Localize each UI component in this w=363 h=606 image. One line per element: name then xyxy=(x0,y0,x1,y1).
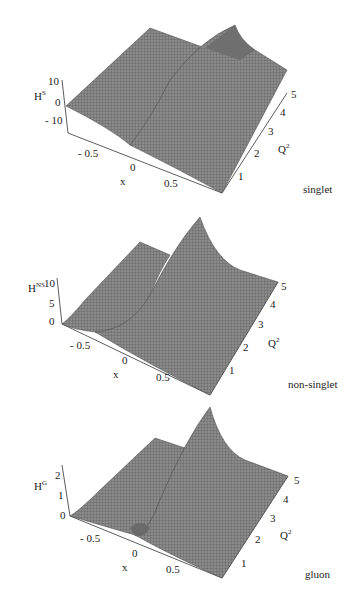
z-tick: 2 xyxy=(55,470,61,481)
z-tick: 10 xyxy=(48,76,59,87)
z-label-sup: G xyxy=(42,479,47,487)
x-axis-label: x xyxy=(113,369,119,380)
z-tick: 0 xyxy=(60,510,66,521)
y-label-text: Q xyxy=(280,529,288,541)
y-tick: 5 xyxy=(294,475,300,486)
y-tick: 2 xyxy=(255,534,261,545)
y-tick: 3 xyxy=(270,513,276,524)
x-tick: - 0.5 xyxy=(78,148,98,159)
x-axis-label: x xyxy=(120,176,126,187)
y-label-text: Q xyxy=(268,337,276,349)
y-tick: 2 xyxy=(254,148,260,159)
z-label-text: H xyxy=(34,480,42,492)
y-axis-label: Q2 xyxy=(280,527,291,541)
y-tick: 5 xyxy=(281,281,287,292)
panel-caption: gluon xyxy=(305,568,330,580)
z-axis-label: HNS xyxy=(28,280,45,294)
z-tick: 5 xyxy=(49,298,55,309)
x-tick: - 0.5 xyxy=(80,533,100,544)
z-tick: 0 xyxy=(55,97,61,108)
gluon-panel: HG 2 1 0 - 0.5 0 x 0.5 1 2 3 4 5 Q2 gluo… xyxy=(0,400,363,600)
z-label-text: H xyxy=(28,282,36,294)
z-label-sup: S xyxy=(42,89,46,97)
x-tick: 0 xyxy=(130,162,136,173)
y-tick: 3 xyxy=(268,126,274,137)
z-label-text: H xyxy=(34,90,42,102)
y-tick: 4 xyxy=(270,299,276,310)
y-tick: 4 xyxy=(283,494,289,505)
x-tick: 0 xyxy=(132,548,138,559)
y-tick: 5 xyxy=(291,89,297,100)
x-tick: - 0.5 xyxy=(70,340,90,351)
singlet-panel: 10 HS 0 - 10 - 0.5 0 x 0.5 1 2 3 4 5 Q2 … xyxy=(0,0,363,200)
z-tick: 10 xyxy=(44,278,55,289)
y-tick: 1 xyxy=(229,365,235,376)
y-label-text: Q xyxy=(278,143,286,155)
panel-caption: non-singlet xyxy=(288,378,338,390)
y-tick: 3 xyxy=(258,319,264,330)
x-tick: 0.5 xyxy=(156,372,170,383)
x-tick: 0.5 xyxy=(164,178,178,189)
z-tick: 1 xyxy=(58,490,64,501)
y-label-sup: 2 xyxy=(288,528,292,536)
y-label-sup: 2 xyxy=(286,142,290,150)
x-tick: 0 xyxy=(122,355,128,366)
x-axis-label: x xyxy=(122,562,128,573)
y-axis-label: Q2 xyxy=(268,335,279,349)
y-tick: 1 xyxy=(238,171,244,182)
z-axis-label: HG xyxy=(34,478,47,492)
x-tick: 0.5 xyxy=(166,564,180,575)
z-tick: 0 xyxy=(49,316,55,327)
z-axis-label: HS xyxy=(34,88,46,102)
panel-caption: singlet xyxy=(303,183,332,195)
y-label-sup: 2 xyxy=(276,336,280,344)
z-tick: - 10 xyxy=(45,115,62,126)
y-tick: 2 xyxy=(243,342,249,353)
non-singlet-panel: HNS 10 5 0 - 0.5 0 x 0.5 1 2 3 4 5 Q2 no… xyxy=(0,200,363,400)
y-tick: 1 xyxy=(241,558,247,569)
y-tick: 4 xyxy=(280,107,286,118)
y-axis-label: Q2 xyxy=(278,141,289,155)
